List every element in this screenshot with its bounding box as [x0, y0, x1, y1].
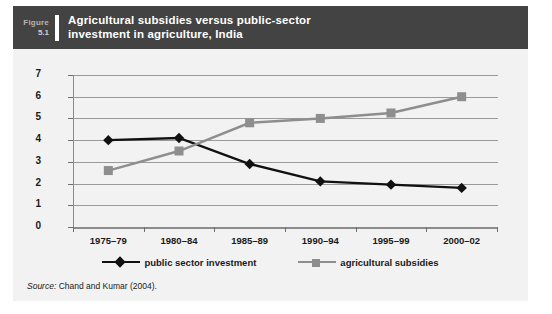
y-tick-mark-2 [68, 184, 73, 185]
y-tick-label-6: 6 [23, 90, 41, 101]
y-tick-label-1: 1 [23, 198, 41, 209]
y-tick-mark-7 [68, 75, 73, 76]
data-point-1-1 [175, 147, 184, 156]
legend-label-0: public sector investment [144, 257, 256, 268]
y-tick-label-5: 5 [23, 111, 41, 122]
page-title: Agricultural subsidies versus public-sec… [68, 14, 311, 41]
page-title-line-2: investment in agriculture, India [68, 28, 311, 42]
legend-marker-diamond-icon [102, 256, 140, 268]
figure-number-block: Figure 5.1 [13, 18, 55, 38]
x-tick-mark-5 [426, 227, 427, 232]
x-tick-label-3: 1990–94 [280, 235, 360, 246]
figure-number-value: 5.1 [13, 28, 49, 38]
source-text: Chand and Kumar (2004). [59, 281, 157, 291]
header-divider-rule [55, 15, 59, 41]
figure-card: Figure 5.1 Agricultural subsidies versus… [13, 6, 528, 301]
legend-item-public-sector-investment: public sector investment [102, 256, 256, 268]
x-tick-label-0: 1975–79 [68, 235, 148, 246]
data-point-0-1 [174, 133, 184, 143]
x-tick-mark-end [497, 227, 498, 232]
figure-header: Figure 5.1 Agricultural subsidies versus… [13, 6, 528, 49]
series-layer [73, 75, 497, 227]
y-tick-label-2: 2 [23, 177, 41, 188]
y-tick-mark-4 [68, 140, 73, 141]
x-tick-mark-1 [144, 227, 145, 232]
x-tick-mark-2 [214, 227, 215, 232]
source-label: Source: [27, 281, 56, 291]
legend-marker-square-icon [298, 256, 336, 268]
x-tick-label-1: 1980–84 [139, 235, 219, 246]
legend-label-1: agricultural subsidies [340, 257, 438, 268]
data-point-0-0 [103, 135, 113, 145]
x-tick-label-2: 1985–89 [210, 235, 290, 246]
x-tick-label-4: 1995–99 [351, 235, 431, 246]
figure-number-word: Figure [13, 18, 49, 28]
y-tick-label-0: 0 [23, 220, 41, 231]
source-note: Source: Chand and Kumar (2004). [27, 281, 157, 291]
y-tick-mark-5 [68, 118, 73, 119]
data-point-1-2 [245, 118, 254, 127]
y-tick-label-3: 3 [23, 155, 41, 166]
y-tick-mark-3 [68, 162, 73, 163]
data-point-0-4 [386, 179, 396, 189]
y-tick-label-4: 4 [23, 133, 41, 144]
x-tick-mark-3 [285, 227, 286, 232]
data-point-1-3 [316, 114, 325, 123]
x-tick-mark-4 [356, 227, 357, 232]
x-tick-label-5: 2000–02 [422, 235, 502, 246]
legend-item-agricultural-subsidies: agricultural subsidies [298, 256, 438, 268]
data-point-1-0 [104, 166, 113, 175]
series-line-1 [108, 97, 461, 171]
series-line-0 [108, 138, 461, 188]
data-point-0-3 [315, 176, 325, 186]
page-title-line-1: Agricultural subsidies versus public-sec… [68, 14, 311, 28]
chart-legend: public sector investment agricultural su… [13, 256, 528, 268]
data-point-1-5 [457, 92, 466, 101]
x-tick-mark-0 [73, 227, 74, 232]
data-point-1-4 [387, 109, 396, 118]
y-tick-mark-6 [68, 97, 73, 98]
data-point-0-2 [244, 159, 254, 169]
data-point-0-5 [456, 183, 466, 193]
y-tick-label-7: 7 [23, 68, 41, 79]
chart-region: public sector investment agricultural su… [13, 49, 528, 301]
y-tick-mark-1 [68, 205, 73, 206]
